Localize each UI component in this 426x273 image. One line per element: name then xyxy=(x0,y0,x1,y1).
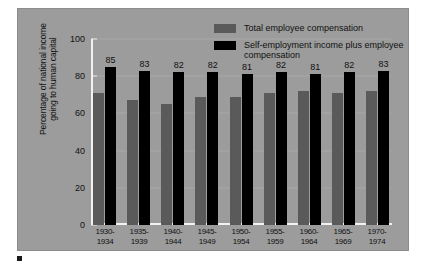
bar-gray xyxy=(161,104,172,225)
x-axis-tick-label: 1965-1969 xyxy=(331,227,355,246)
bar-black: 83 xyxy=(378,71,389,225)
bar-group: 81 xyxy=(298,39,321,225)
bar-black: 82 xyxy=(207,72,218,225)
x-axis-tick-label: 1950-1954 xyxy=(229,227,253,246)
legend-label-gray: Total employee compensation xyxy=(244,23,363,34)
x-tick-line-bottom: 1959 xyxy=(263,237,287,247)
x-tick-line-top: 1970- xyxy=(365,227,389,237)
bar-black: 81 xyxy=(242,74,253,225)
bar-value-label: 85 xyxy=(105,55,115,65)
y-axis-title-line-1: Percentage of national income xyxy=(38,0,48,164)
bar-group: 83 xyxy=(127,39,150,225)
bar-group: 82 xyxy=(332,39,355,225)
bar-groups: 858382828182818283 xyxy=(91,39,391,225)
x-axis-tick-label: 1970-1974 xyxy=(365,227,389,246)
bar-gray xyxy=(127,100,138,225)
bar-group: 82 xyxy=(264,39,287,225)
y-axis-title-line-2: going to human capital xyxy=(48,0,58,164)
y-axis-tick-label: 20 xyxy=(75,183,85,193)
bar-gray xyxy=(264,93,275,225)
bar-gray xyxy=(93,93,104,225)
y-axis-tick-label: 40 xyxy=(75,146,85,156)
bar-gray xyxy=(230,97,241,225)
x-tick-line-bottom: 1934 xyxy=(93,237,117,247)
y-axis-title: Percentage of national income going to h… xyxy=(38,0,58,164)
caption-marker-icon xyxy=(17,256,22,261)
x-tick-line-bottom: 1954 xyxy=(229,237,253,247)
x-tick-line-bottom: 1949 xyxy=(195,237,219,247)
x-tick-line-bottom: 1974 xyxy=(365,237,389,247)
y-axis-tick-label: 60 xyxy=(75,108,85,118)
chart-panel: Percentage of national income going to h… xyxy=(17,8,409,251)
bar-black: 83 xyxy=(139,71,150,225)
bar-gray xyxy=(332,93,343,225)
bar-group: 81 xyxy=(230,39,253,225)
legend-item-total-employee-compensation: Total employee compensation xyxy=(214,23,408,34)
x-tick-line-top: 1935- xyxy=(127,227,151,237)
bar-group: 82 xyxy=(195,39,218,225)
chart-legend: Total employee compensation Self-employm… xyxy=(214,23,408,67)
x-tick-line-top: 1930- xyxy=(93,227,117,237)
x-axis-tick-label: 1955-1959 xyxy=(263,227,287,246)
x-axis-tick-label: 1960-1964 xyxy=(297,227,321,246)
y-axis-tick-label: 0 xyxy=(80,220,85,230)
legend-item-self-employment-income: Self-employment income plus employee com… xyxy=(214,40,408,61)
x-tick-line-bottom: 1969 xyxy=(331,237,355,247)
bar-group: 83 xyxy=(366,39,389,225)
bar-black: 85 xyxy=(105,67,116,225)
x-axis-tick-label: 1930-1934 xyxy=(93,227,117,246)
x-axis-tick-labels: 1930-19341935-19391940-19441945-19491950… xyxy=(91,227,391,246)
y-axis-tick-label: 80 xyxy=(75,71,85,81)
y-axis-tick-label: 100 xyxy=(70,34,85,44)
bar-black: 82 xyxy=(173,72,184,225)
x-tick-line-top: 1955- xyxy=(263,227,287,237)
legend-label-black: Self-employment income plus employee com… xyxy=(244,40,408,61)
bar-gray xyxy=(366,91,377,225)
bar-gray xyxy=(195,97,206,225)
x-tick-line-bottom: 1944 xyxy=(161,237,185,247)
bar-group: 85 xyxy=(93,39,116,225)
legend-swatch-gray xyxy=(214,24,236,33)
x-tick-line-bottom: 1964 xyxy=(297,237,321,247)
bar-value-label: 83 xyxy=(140,59,150,69)
bar-black: 81 xyxy=(310,74,321,225)
x-tick-line-top: 1945- xyxy=(195,227,219,237)
x-tick-line-top: 1940- xyxy=(161,227,185,237)
bar-black: 82 xyxy=(344,72,355,225)
x-axis-tick-label: 1940-1944 xyxy=(161,227,185,246)
plot-area: 100806040200 858382828182818283 xyxy=(91,39,391,225)
x-tick-line-bottom: 1939 xyxy=(127,237,151,247)
bar-value-label: 82 xyxy=(174,60,184,70)
figure-root: Percentage of national income going to h… xyxy=(0,0,426,273)
x-tick-line-top: 1950- xyxy=(229,227,253,237)
bar-gray xyxy=(298,91,309,225)
bar-black: 82 xyxy=(276,72,287,225)
x-tick-line-top: 1960- xyxy=(297,227,321,237)
bar-group: 82 xyxy=(161,39,184,225)
x-tick-line-top: 1965- xyxy=(331,227,355,237)
legend-swatch-black xyxy=(214,41,236,50)
x-axis-tick-label: 1945-1949 xyxy=(195,227,219,246)
figure-caption xyxy=(17,256,25,261)
x-axis-tick-label: 1935-1939 xyxy=(127,227,151,246)
